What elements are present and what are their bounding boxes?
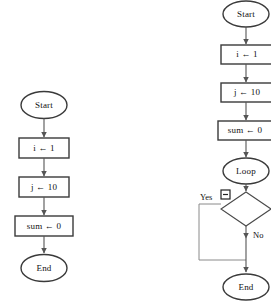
node-label-init-sum: sum ← 0 [228,125,263,135]
flowchart-canvas: Start i ← 1 j ← 10 sum ← 0 [0,0,271,305]
edge-label-no: No [253,230,263,240]
node-label-init-i: i ← 1 [236,49,258,59]
node-start-right[interactable]: Start [223,1,269,27]
edge-label-yes: Yes [200,192,212,202]
node-init-i-right[interactable]: i ← 1 [221,45,271,64]
node-label-loop: Loop [236,166,256,176]
node-label-init-sum: sum ← 0 [27,221,62,231]
node-init-i-left[interactable]: i ← 1 [19,138,69,158]
node-init-j-left[interactable]: j ← 10 [19,177,69,197]
flowchart-right: Start i ← 1 j ← 10 sum ← 0 [199,1,271,300]
node-label-end: End [238,282,253,292]
node-init-sum-left[interactable]: sum ← 0 [15,216,73,236]
collapse-minus-box-icon[interactable] [221,190,230,199]
flowchart-svg: Start i ← 1 j ← 10 sum ← 0 [0,0,271,305]
node-label-end: End [36,263,51,273]
node-label-init-j: j ← 10 [30,182,58,192]
node-start-left[interactable]: Start [21,92,67,119]
flowchart-left: Start i ← 1 j ← 10 sum ← 0 [15,92,73,282]
node-init-sum-right[interactable]: sum ← 0 [218,121,271,140]
node-loop-right[interactable]: Loop [223,158,269,184]
node-label-start: Start [237,9,255,19]
node-label-init-i: i ← 1 [33,143,55,153]
node-end-left[interactable]: End [21,255,67,282]
node-init-j-right[interactable]: j ← 10 [221,83,271,102]
node-label-start: Start [35,100,53,110]
node-end-right[interactable]: End [223,274,269,300]
node-label-init-j: j ← 10 [233,87,261,97]
